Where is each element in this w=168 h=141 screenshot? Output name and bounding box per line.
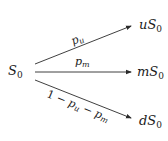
middle-prob-subscript: m xyxy=(82,60,90,69)
down-target-node: dS0 xyxy=(139,114,162,130)
middle-target-base: S xyxy=(149,64,158,79)
up-target-node: uS0 xyxy=(139,18,162,34)
middle-probability-label: pm xyxy=(75,56,90,69)
root-node-label: S0 xyxy=(8,64,23,80)
down-target-base: S xyxy=(147,113,156,128)
middle-target-prefix: m xyxy=(137,64,149,79)
root-subscript: 0 xyxy=(17,70,23,80)
up-target-base: S xyxy=(147,17,156,32)
middle-target-node: mS0 xyxy=(137,65,164,81)
root-base: S xyxy=(8,63,17,78)
up-target-subscript: 0 xyxy=(156,24,162,34)
middle-prob-base: p xyxy=(75,55,82,68)
down-target-subscript: 0 xyxy=(156,120,162,130)
trinomial-tree-diagram: S0 pu pm 1 − pu − pm uS0 mS0 dS0 xyxy=(0,0,168,141)
middle-target-subscript: 0 xyxy=(158,71,164,81)
